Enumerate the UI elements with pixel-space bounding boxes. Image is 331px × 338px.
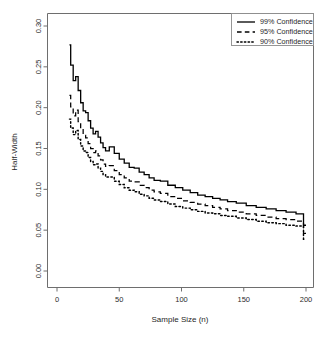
x-tick-label: 50 <box>115 295 123 304</box>
y-tick-label: 0.20 <box>34 100 43 115</box>
x-tick-label: 200 <box>300 295 313 304</box>
x-tick-label: 0 <box>55 295 59 304</box>
x-axis: 050100150200 <box>55 288 312 304</box>
series-line-95-confidence <box>69 95 306 233</box>
legend-label: 90% Confidence <box>260 37 313 46</box>
y-tick-label: 0.15 <box>34 141 43 156</box>
y-tick-label: 0.00 <box>34 264 43 279</box>
y-axis: 0.000.050.100.150.200.250.30 <box>34 19 47 279</box>
chart-legend: 99% Confidence95% Confidence90% Confiden… <box>232 14 314 46</box>
x-axis-title: Sample Size (n) <box>152 315 209 324</box>
series-line-99-confidence <box>69 45 306 225</box>
y-tick-label: 0.05 <box>34 223 43 238</box>
y-tick-label: 0.10 <box>34 182 43 197</box>
y-tick-label: 0.30 <box>34 19 43 34</box>
y-tick-label: 0.25 <box>34 60 43 75</box>
x-tick-label: 100 <box>175 295 188 304</box>
legend-label: 95% Confidence <box>260 27 313 36</box>
x-tick-label: 150 <box>237 295 250 304</box>
legend-label: 99% Confidence <box>260 17 313 26</box>
confidence-halfwidth-line-chart: 0.000.050.100.150.200.250.30 05010015020… <box>0 0 331 338</box>
chart-container: 0.000.050.100.150.200.250.30 05010015020… <box>0 0 331 338</box>
series-group <box>69 45 306 239</box>
y-axis-title: Half-Width <box>10 133 19 170</box>
plot-frame <box>48 14 314 288</box>
series-line-90-confidence <box>69 119 306 239</box>
